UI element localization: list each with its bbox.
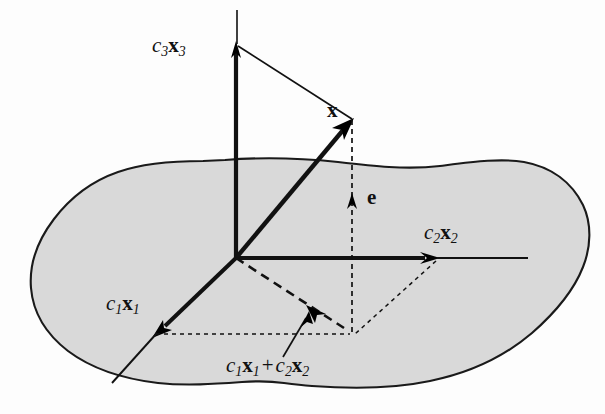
basis-vector-x3: x xyxy=(168,33,179,57)
coefficient-c3: c xyxy=(152,33,161,57)
coefficient-c2: c xyxy=(424,220,433,244)
subscript-3b: 3 xyxy=(179,44,186,59)
subscript-1b: 1 xyxy=(133,302,140,317)
basis-vector-x2: x xyxy=(440,220,451,244)
axis-label-c1x1: c1x1 xyxy=(106,293,140,317)
axis-label-c3x3: c3x3 xyxy=(152,35,186,59)
sum-subscript-1b: 1 xyxy=(253,364,260,379)
sum-subscript-2: 2 xyxy=(285,364,292,379)
sum-basis-x2: x xyxy=(292,353,303,377)
sum-coefficient-c2: c xyxy=(276,353,285,377)
vector-label-e: e xyxy=(367,187,376,208)
sum-basis-x1: x xyxy=(242,353,253,377)
figure-canvas xyxy=(0,0,605,414)
vector-e-glyph: e xyxy=(367,185,376,209)
subscript-2b: 2 xyxy=(451,231,458,246)
basis-vector-x1: x xyxy=(122,291,133,315)
vector-decomposition-figure: c3x3 x e c2x2 c1x1 c1x1+c2x2 xyxy=(0,0,605,414)
sum-coefficient-c1: c xyxy=(226,353,235,377)
axis-label-c2x2: c2x2 xyxy=(424,222,458,246)
sum-subscript-2b: 2 xyxy=(302,364,309,379)
plus-operator: + xyxy=(260,353,276,377)
coefficient-c1: c xyxy=(106,291,115,315)
projection-sum-label: c1x1+c2x2 xyxy=(226,355,309,379)
plane-region-shape xyxy=(31,158,590,388)
vector-label-x: x xyxy=(327,100,338,121)
vector-x-glyph: x xyxy=(327,98,338,122)
